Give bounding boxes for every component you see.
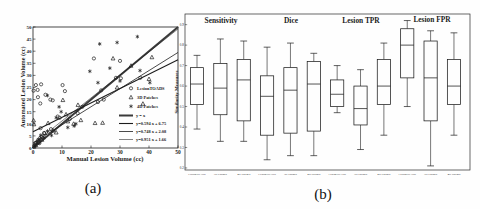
y-tick-label: 10 [26,122,32,127]
group-title-sensitivity: Sensitivity [205,16,238,25]
x-tick-label: LesionTOADS [399,172,417,176]
box-lesion-fpr-3d-patches [424,31,437,166]
y-tick-label: 0.3 [180,146,184,150]
iqr-box [307,61,320,131]
box-dice-lesiontoads [260,47,273,160]
x-tick-label: 4D Patches [307,172,321,176]
x-tick-label: LesionTOADS [188,172,206,176]
iqr-box [190,68,203,105]
scatter-point [148,81,151,85]
scatter-point [92,57,95,60]
group-title-lesion-tpr: Lesion TPR [342,16,380,25]
iqr-box [354,86,367,125]
x-tick-label: 3D Patches [214,172,228,176]
scatter-point [32,89,35,92]
x-tick-label: 0 [32,149,35,155]
scatter-point [46,129,49,133]
scatter-point [39,102,42,105]
legend-label-4d-patches: 4D Patches [137,104,158,109]
y-tick-label: 40 [26,49,32,54]
legend-marker [129,104,132,108]
iqr-box [237,59,250,120]
legend-label-line-fit1: y=0.594 x + 6.75 [136,121,167,126]
x-tick-label: 3D Patches [354,172,368,176]
scatter-point [36,88,39,91]
box-lesion-tpr-lesiontoads [331,66,344,113]
scatter-point [76,103,80,107]
y-tick-label: 5 [29,134,32,139]
box-sensitivity-4d-patches [237,41,250,141]
y-tick-label: 35 [26,61,32,66]
scatter-point [34,83,37,86]
scatter-point [93,121,97,125]
legend-label-line-fit3: y=0.951 x + 1.66 [136,137,167,142]
y-tick-label: 0.7 [180,64,184,68]
y-tick-label: 50 [26,25,32,30]
panel-a-ylabel: Automated Lesion Volume (cc) [19,46,27,127]
scatter-point [98,42,101,46]
iqr-box [447,59,460,104]
y-tick-label: 45 [26,37,32,42]
scatter-point [66,126,69,130]
figure-svg: 0102030405005101520253035404550 Manual L… [0,0,480,209]
scatter-point [115,41,118,45]
legend-label-3d-patches: 3D Patches [137,95,158,100]
scatter-point [46,94,49,98]
box-lesion-tpr-3d-patches [354,70,367,150]
legend-marker [129,95,133,99]
scatter-point [61,98,65,102]
x-tick-label: 3D Patches [284,172,298,176]
box-sensitivity-3d-patches [214,39,227,141]
y-tick-label: 15 [26,110,32,115]
scatter-point [57,105,60,109]
scatter-point [118,59,121,62]
x-tick-label: 40 [146,149,152,155]
panel-a-legend: LesionTOADS 3D Patches 4D Patches y = x … [119,86,167,142]
legend-label-line-fit2: y=0.748 x + 2.08 [136,129,167,134]
panel-a-xlabel: Manual Lesion Volume (cc) [66,155,143,163]
legend-marker-glyphs [119,87,133,140]
scatter-point [96,81,99,85]
scatter-point [150,55,154,59]
x-tick-label: 4D Patches [237,172,251,176]
y-tick-label: 0.9 [180,23,184,27]
scatter-point [136,35,139,39]
scatter-point [61,83,64,86]
scatter-point [63,90,66,93]
y-tick-label: 25 [26,85,32,90]
panel-b-ylabel: Similarity Measures [174,70,179,113]
scatter-point [40,83,43,86]
box-lesion-tpr-4d-patches [377,43,390,135]
figure-two-panel: 0102030405005101520253035404550 Manual L… [0,0,480,209]
scatter-point [88,69,91,73]
iqr-box [284,68,297,134]
group-title-lesion-fpr: Lesion FPR [413,15,451,24]
x-tick-label: 10 [59,149,65,155]
box-sensitivity-lesiontoads [190,55,203,129]
scatter-point [138,69,141,73]
group-title-dice: Dice [284,16,299,25]
caption-a: (a) [85,180,102,197]
y-tick-label: 0.8 [180,43,184,47]
x-tick-label: LesionTOADS [328,172,346,176]
panel-a-scatter: 0102030405005101520253035404550 Manual L… [19,25,181,163]
scatter-point [36,96,39,99]
y-tick-label: 0.2 [180,166,184,170]
panel-b-boxplot: 0.20.30.40.50.60.70.80.9LesionTOADS3D Pa… [174,14,470,176]
y-tick-label: 0.5 [180,105,184,109]
x-tick-label: 4D Patches [377,172,391,176]
x-tick-label: 4D Patches [447,172,461,176]
scatter-point [79,118,83,122]
scatter-point [59,110,62,114]
iqr-box [401,29,414,78]
legend-marker [129,87,132,90]
box-dice-4d-patches [307,53,320,155]
y-tick-label: 0.6 [180,84,184,88]
box-lesion-fpr-lesiontoads [401,21,414,107]
x-tick-label: LesionTOADS [258,172,276,176]
legend-label-line-yx: y = x [136,113,146,118]
box-dice-3d-patches [284,43,297,156]
iqr-box [214,64,227,115]
iqr-box [377,59,390,104]
y-tick-label: 30 [26,73,32,78]
